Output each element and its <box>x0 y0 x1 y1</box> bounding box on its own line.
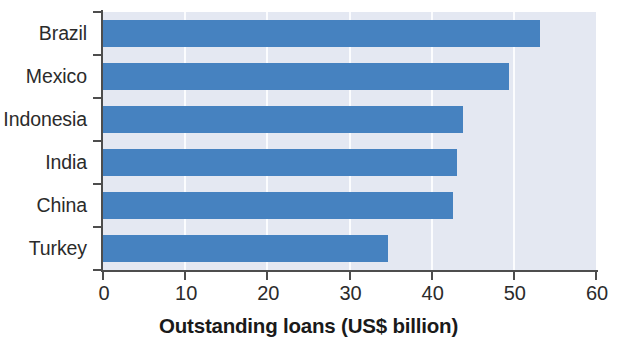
x-axis-tick <box>266 270 268 280</box>
gridline-30 <box>349 12 351 270</box>
gridline-50 <box>513 12 515 270</box>
y-axis-tick <box>93 140 102 142</box>
x-axis-tick-label: 50 <box>485 283 545 303</box>
x-axis-tick-label: 0 <box>74 283 134 303</box>
y-axis-tick <box>93 269 102 271</box>
y-axis-tick <box>93 11 102 13</box>
y-axis-label-indonesia: Indonesia <box>0 110 87 130</box>
x-axis-tick-label: 30 <box>321 283 381 303</box>
bar-turkey <box>103 235 388 262</box>
x-axis-tick-label: 20 <box>238 283 298 303</box>
y-axis-tick <box>93 54 102 56</box>
bar-india <box>103 149 457 176</box>
x-axis-tick-label: 10 <box>156 283 216 303</box>
y-axis-label-mexico: Mexico <box>0 67 87 87</box>
x-axis-tick <box>595 270 597 280</box>
y-axis-label-brazil: Brazil <box>0 24 87 44</box>
x-axis-tick <box>184 270 186 280</box>
y-axis-tick <box>93 226 102 228</box>
y-axis-label-china: China <box>0 196 87 216</box>
bar-chart: Brazil Mexico Indonesia India China Turk… <box>0 0 617 351</box>
x-axis-tick <box>431 270 433 280</box>
y-axis-label-turkey: Turkey <box>0 239 87 259</box>
bar-indonesia <box>103 106 463 133</box>
y-axis-tick <box>93 97 102 99</box>
bar-mexico <box>103 63 509 90</box>
bar-china <box>103 192 453 219</box>
x-axis-tick <box>349 270 351 280</box>
x-axis-tick-label: 40 <box>403 283 463 303</box>
bar-brazil <box>103 20 540 47</box>
gridline-40 <box>431 12 433 270</box>
x-axis-tick <box>513 270 515 280</box>
x-axis-tick <box>102 270 104 280</box>
x-axis-tick-label: 60 <box>567 283 617 303</box>
plot-area <box>103 12 596 270</box>
y-axis-tick <box>93 183 102 185</box>
y-axis-category-labels: Brazil Mexico Indonesia India China Turk… <box>0 12 96 270</box>
gridline-10 <box>184 12 186 270</box>
x-axis-title: Outstanding loans (US$ billion) <box>0 316 617 337</box>
y-axis-label-india: India <box>0 153 87 173</box>
gridline-20 <box>266 12 268 270</box>
